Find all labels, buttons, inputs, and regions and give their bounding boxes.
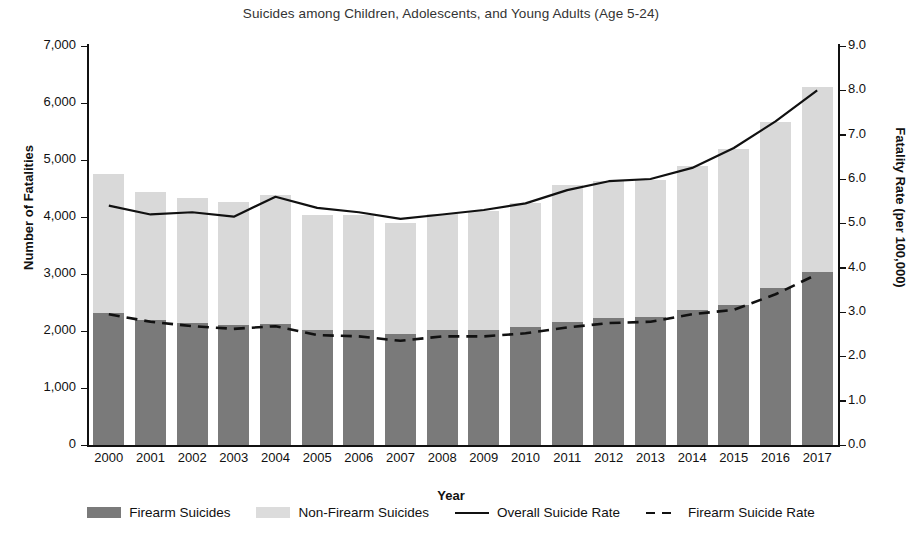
x-axis-label-2013: 2013 [628, 450, 674, 465]
bar-segment-non-firearm [802, 87, 833, 272]
bar-segment-non-firearm [302, 215, 333, 330]
bar-2003 [218, 202, 249, 445]
x-axis-label-2017: 2017 [794, 450, 840, 465]
y-axis-left-tick-label: 2,000 [4, 322, 76, 337]
y-axis-left-tick-label: 1,000 [4, 379, 76, 394]
bar-segment-non-firearm [760, 122, 791, 288]
y-axis-right-tick [840, 90, 846, 92]
bar-segment-non-firearm [427, 214, 458, 330]
bar-segment-non-firearm [552, 185, 583, 322]
y-axis-left-tick-label: 7,000 [4, 37, 76, 52]
y-axis-left-tick [81, 160, 87, 162]
x-axis-label-2014: 2014 [669, 450, 715, 465]
bar-2002 [177, 198, 208, 445]
bar-segment-firearm [468, 330, 499, 445]
y-axis-right-tick-label: 9.0 [848, 37, 894, 52]
bar-2017 [802, 87, 833, 445]
bar-2010 [510, 203, 541, 445]
bar-2000 [93, 174, 124, 445]
x-axis-label-2015: 2015 [711, 450, 757, 465]
bar-2008 [427, 214, 458, 445]
legend-label: Firearm Suicides [129, 505, 230, 520]
x-axis-label-2003: 2003 [211, 450, 257, 465]
bar-segment-non-firearm [718, 149, 749, 305]
bar-segment-non-firearm [510, 203, 541, 327]
x-axis-label-2012: 2012 [586, 450, 632, 465]
y-axis-left-tick-label: 6,000 [4, 94, 76, 109]
bar-segment-firearm [260, 324, 291, 445]
bar-segment-non-firearm [93, 174, 124, 313]
y-axis-right-tick [840, 267, 846, 269]
y-axis-right-tick [840, 134, 846, 136]
bar-segment-firearm [218, 325, 249, 445]
bar-segment-firearm [802, 272, 833, 445]
y-axis-left-tick [81, 388, 87, 390]
x-axis-line [87, 445, 840, 447]
bar-2011 [552, 185, 583, 445]
legend-item[interactable]: Overall Suicide Rate [455, 505, 620, 520]
y-axis-right-tick-label: 7.0 [848, 126, 894, 141]
y-axis-left-tick-label: 5,000 [4, 151, 76, 166]
y-axis-right-tick [840, 312, 846, 314]
bar-2005 [302, 215, 333, 445]
y-axis-right-tick [840, 223, 846, 225]
chart-title: Suicides among Children, Adolescents, an… [0, 6, 902, 21]
bar-segment-non-firearm [135, 192, 166, 319]
y-axis-left-tick-label: 3,000 [4, 265, 76, 280]
y-axis-right-tick [840, 400, 846, 402]
x-axis-label-2007: 2007 [378, 450, 424, 465]
y-axis-left-tick [81, 445, 87, 447]
bar-2016 [760, 122, 791, 445]
x-axis-label-2016: 2016 [753, 450, 799, 465]
legend-item[interactable]: Firearm Suicides [87, 505, 230, 520]
y-axis-right-tick-label: 1.0 [848, 392, 894, 407]
bar-2012 [593, 181, 624, 445]
bar-segment-non-firearm [593, 181, 624, 318]
y-axis-left-tick [81, 46, 87, 48]
bar-segment-non-firearm [177, 198, 208, 323]
y-axis-right-tick [840, 445, 846, 447]
legend-label: Overall Suicide Rate [497, 505, 620, 520]
bar-2014 [677, 166, 708, 445]
bar-2006 [343, 215, 374, 445]
x-axis-label-2000: 2000 [86, 450, 132, 465]
bar-segment-non-firearm [385, 223, 416, 334]
bar-2015 [718, 149, 749, 445]
x-axis-label-2008: 2008 [419, 450, 465, 465]
overall-suicide-rate-line [109, 90, 817, 219]
y-axis-right-tick-label: 2.0 [848, 347, 894, 362]
y-axis-right-tick-label: 3.0 [848, 303, 894, 318]
bar-segment-firearm [427, 330, 458, 445]
bar-2009 [468, 211, 499, 445]
legend-swatch-firearm-icon [87, 507, 121, 518]
bar-segment-firearm [385, 334, 416, 445]
y-axis-left-tick [81, 103, 87, 105]
y-axis-left-tick-label: 4,000 [4, 208, 76, 223]
x-axis-label-2005: 2005 [294, 450, 340, 465]
legend-item[interactable]: Firearm Suicide Rate [646, 505, 815, 520]
x-axis-label-2001: 2001 [128, 450, 174, 465]
legend-item[interactable]: Non-Firearm Suicides [256, 505, 429, 520]
bar-segment-firearm [718, 305, 749, 445]
legend-line-dashed-icon [646, 507, 680, 518]
bar-2013 [635, 180, 666, 445]
legend-swatch-non-firearm-icon [256, 507, 290, 518]
bar-segment-non-firearm [260, 195, 291, 324]
bar-segment-firearm [677, 310, 708, 445]
bar-segment-non-firearm [343, 215, 374, 330]
bar-segment-firearm [635, 317, 666, 445]
y-axis-left-line [87, 44, 89, 447]
x-axis-title: Year [0, 488, 902, 503]
chart-legend: Firearm SuicidesNon-Firearm SuicidesOver… [0, 505, 902, 520]
y-axis-right-tick-label: 6.0 [848, 170, 894, 185]
firearm-suicide-rate-line [109, 274, 817, 341]
bar-segment-firearm [302, 330, 333, 445]
bar-segment-non-firearm [677, 166, 708, 310]
x-axis-label-2002: 2002 [169, 450, 215, 465]
y-axis-right-tick-label: 4.0 [848, 259, 894, 274]
bar-segment-non-firearm [218, 202, 249, 325]
x-axis-label-2009: 2009 [461, 450, 507, 465]
x-axis-label-2004: 2004 [253, 450, 299, 465]
legend-label: Firearm Suicide Rate [688, 505, 815, 520]
x-axis-label-2011: 2011 [544, 450, 590, 465]
